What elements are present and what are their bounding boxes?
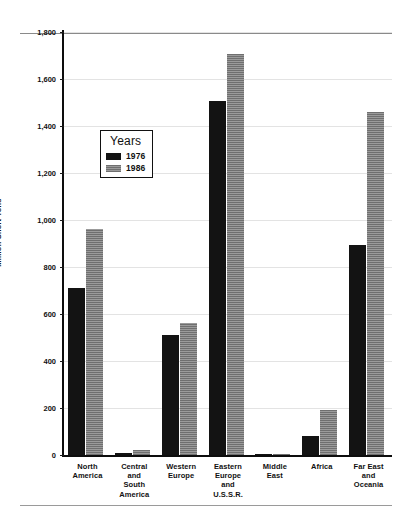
y-axis-title: Million Short Tons [0, 123, 3, 343]
y-axis-tick-mark [60, 455, 64, 456]
x-axis-category-label: WesternEurope [158, 462, 205, 480]
bar-1986[interactable] [133, 450, 150, 455]
x-axis-category-label: CentralandSouthAmerica [111, 462, 158, 499]
legend-swatch-icon-1976 [106, 153, 121, 160]
category-label-line: North [64, 462, 111, 471]
bar-group [111, 32, 158, 455]
plot-area: Million Short Tons Years 1976 1986 [64, 32, 392, 455]
y-axis-tick-label: 1,000 [0, 216, 62, 225]
y-axis-tick-label: 1,200 [0, 169, 62, 178]
bar-group [205, 32, 252, 455]
category-label-line: Central [111, 462, 158, 471]
legend-swatch-icon-1986 [106, 165, 121, 172]
legend-label-1976: 1976 [126, 151, 145, 161]
x-axis-category-label: Africa [298, 462, 345, 471]
y-axis-tick-label: 600 [0, 310, 62, 319]
y-axis-tick-label: 0 [0, 451, 62, 460]
bar-group [251, 32, 298, 455]
bar-1976[interactable] [349, 245, 366, 455]
category-label-line: Africa [298, 462, 345, 471]
category-label-line: Middle [251, 462, 298, 471]
legend-item-1986[interactable]: 1986 [106, 163, 145, 173]
bar-group [298, 32, 345, 455]
bar-1976[interactable] [209, 101, 226, 455]
legend-title: Years [106, 134, 145, 148]
bar-1986[interactable] [86, 229, 103, 455]
bar-1976[interactable] [68, 288, 85, 455]
bar-1986[interactable] [227, 54, 244, 455]
bar-1976[interactable] [162, 335, 179, 455]
category-label-line: South [111, 480, 158, 489]
category-label-line: U.S.S.R. [205, 490, 252, 499]
bar-group [64, 32, 111, 455]
bar-1976[interactable] [302, 436, 319, 455]
bar-1986[interactable] [320, 410, 337, 455]
chart-legend: Years 1976 1986 [100, 130, 153, 178]
category-label-line: and [111, 471, 158, 480]
category-label-line: Europe [205, 471, 252, 480]
category-label-line: Western [158, 462, 205, 471]
bar-group [345, 32, 392, 455]
x-axis-category-labels: NorthAmericaCentralandSouthAmericaWester… [64, 462, 392, 522]
x-axis-category-label: EasternEuropeandU.S.S.R. [205, 462, 252, 499]
y-axis-tick-label: 1,600 [0, 75, 62, 84]
bar-1986[interactable] [180, 323, 197, 455]
category-label-line: Oceania [345, 480, 392, 489]
y-axis-tick-label: 1,800 [0, 28, 62, 37]
bar-group [158, 32, 205, 455]
category-label-line: and [345, 471, 392, 480]
y-axis-tick-label: 400 [0, 357, 62, 366]
y-axis-tick-label: 200 [0, 404, 62, 413]
x-axis-category-label: MiddleEast [251, 462, 298, 480]
legend-label-1986: 1986 [126, 163, 145, 173]
y-axis-tick-label: 800 [0, 263, 62, 272]
category-label-line: East [251, 471, 298, 480]
category-label-line: Far East [345, 462, 392, 471]
bar-1976[interactable] [255, 454, 272, 455]
category-label-line: America [111, 490, 158, 499]
y-axis-tick-label: 1,400 [0, 122, 62, 131]
bar-1976[interactable] [115, 453, 132, 455]
bar-1986[interactable] [367, 112, 384, 455]
category-label-line: and [205, 480, 252, 489]
x-axis-category-label: Far EastandOceania [345, 462, 392, 490]
category-label-line: America [64, 471, 111, 480]
category-label-line: Eastern [205, 462, 252, 471]
bar-chart-figure: 02004006008001,0001,2001,4001,6001,800 M… [0, 0, 410, 528]
bar-1986[interactable] [273, 454, 290, 455]
category-label-line: Europe [158, 471, 205, 480]
x-axis-category-label: NorthAmerica [64, 462, 111, 480]
legend-item-1976[interactable]: 1976 [106, 151, 145, 161]
